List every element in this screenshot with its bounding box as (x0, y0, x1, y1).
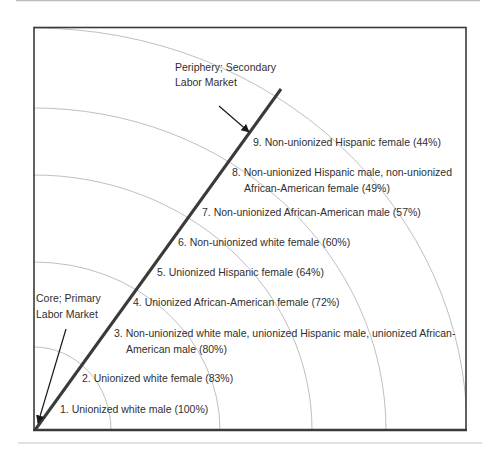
ring-label-6: 6. Non-unionized white female (60%) (178, 236, 350, 248)
ring-label-8: 8. Non-unionized Hispanic male, non-unio… (232, 166, 455, 194)
periphery-arrow (219, 106, 249, 132)
periphery-label: Periphery; Secondary Labor Market (175, 61, 279, 88)
core-label: Core; Primary Labor Market (36, 292, 104, 320)
core-label-line1: Core; Primary (36, 292, 102, 304)
diagram-frame (34, 28, 466, 431)
ring-label-3: 3. Non-unionized white male, unionized H… (114, 327, 458, 355)
ring-label-3-line2: American male (80%) (126, 343, 227, 355)
ring-arc-5 (34, 28, 467, 430)
ring-arcs (34, 28, 467, 430)
ring-label-3-line1: 3. Non-unionized white male, unionized H… (114, 327, 456, 339)
core-label-line2: Labor Market (36, 308, 98, 320)
ring-label-7: 7. Non-unionized African-American male (… (202, 206, 421, 218)
labor-market-diagram: Periphery; Secondary Labor Market Core; … (0, 0, 492, 450)
ring-label-2: 2. Unionized white female (83%) (82, 372, 233, 384)
periphery-label-line1: Periphery; Secondary (175, 61, 277, 73)
ring-label-8-line2: African-American female (49%) (244, 182, 390, 194)
periphery-label-line2: Labor Market (175, 76, 237, 88)
ring-label-4: 4. Unionized African-American female (72… (133, 296, 340, 308)
ring-label-5: 5. Unionized Hispanic female (64%) (157, 266, 324, 278)
ring-label-9: 9. Non-unionized Hispanic female (44%) (253, 136, 441, 148)
ring-label-1: 1. Unionized white male (100%) (60, 403, 208, 415)
ring-label-8-line1: 8. Non-unionized Hispanic male, non-unio… (232, 166, 452, 178)
